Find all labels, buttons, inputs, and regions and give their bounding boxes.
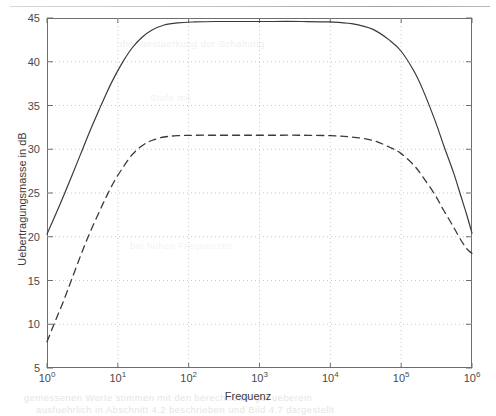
x-tick-label: 104	[322, 372, 339, 384]
x-tick-label: 105	[393, 372, 410, 384]
x-tick-label: 101	[109, 372, 126, 384]
x-tick-label: 106	[464, 372, 481, 384]
y-axis-title: Uebertragungsmasse in dB	[16, 99, 28, 299]
x-axis-tick-labels: 100101102103104105106	[0, 0, 496, 416]
x-tick-label: 100	[39, 372, 56, 384]
bode-magnitude-chart: 51015202530354045 100101102103104105106 …	[0, 0, 496, 416]
x-tick-label: 103	[251, 372, 268, 384]
x-tick-label: 102	[180, 372, 197, 384]
x-axis-title: Frequenz	[0, 390, 496, 402]
